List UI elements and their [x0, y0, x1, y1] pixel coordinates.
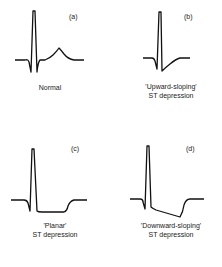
caption-c-line2: ST depression [15, 230, 95, 239]
panel-label-d: (d) [186, 145, 195, 152]
panel-label-c: (c) [71, 145, 79, 152]
ecg-trace-planar [11, 149, 87, 212]
panel-label-a: (a) [69, 13, 78, 20]
ecg-trace-normal [15, 11, 84, 72]
caption-d-line2: ST depression [126, 230, 216, 239]
caption-c-line1: 'Planar' [15, 221, 95, 230]
caption-b-line1: 'Upward-sloping' [131, 82, 211, 91]
caption-a-line1: Normal [20, 83, 80, 92]
caption-c: 'Planar' ST depression [15, 221, 95, 239]
caption-b: 'Upward-sloping' ST depression [131, 82, 211, 100]
caption-d-line1: 'Downward-sloping' [126, 221, 216, 230]
panel-label-b: (b) [184, 13, 193, 20]
ecg-trace-downward-sloping [130, 146, 204, 217]
ecg-trace-upward-sloping [143, 12, 190, 71]
caption-a: Normal [20, 83, 80, 92]
caption-d: 'Downward-sloping' ST depression [126, 221, 216, 239]
caption-b-line2: ST depression [131, 91, 211, 100]
